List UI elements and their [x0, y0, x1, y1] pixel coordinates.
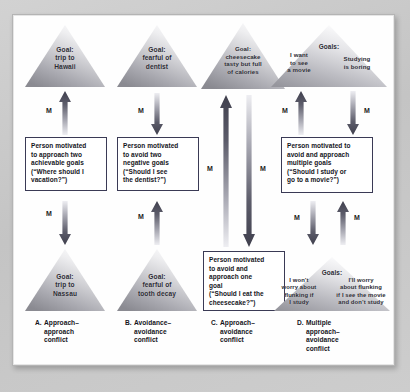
caption-B-letter: B. [125, 319, 132, 328]
triangle-D-top-right-label: Studying is boring [332, 55, 382, 70]
caption-A-line-3: conflict [44, 336, 119, 345]
arrow-A-down-M-label: M [46, 210, 52, 217]
caption-D-letter: D. [297, 319, 304, 328]
text-box-B: Person motivated to avoid two negative g… [117, 137, 199, 191]
caption-A: A. Approach– approach conflict [35, 319, 119, 345]
arrow-B-up-M-label: M [138, 213, 144, 220]
triangle-D-bottom-left-label: I won’t worry about flunking if I study [269, 277, 329, 306]
caption-C: C. Approach– avoidance conflict [211, 319, 297, 345]
arrow-D-down-to-bottom-goals [305, 201, 321, 245]
caption-B-line-3: conflict [134, 336, 211, 345]
arrow-B-up-from-bottom-goal [149, 201, 165, 245]
triangle-D-top-left-label: I want to see a movie [276, 51, 322, 74]
caption-A-line-2: approach [44, 328, 119, 337]
arrow-D-up-from-bottom-goals [335, 201, 351, 245]
triangle-D-bottom-right-label: I’ll worry about flunking if I see the m… [323, 277, 399, 306]
triangle-D-bottom-goals: Goals: I won’t worry about flunking if I… [271, 255, 393, 313]
arrow-C-up-to-goal [218, 95, 234, 247]
triangle-B-top-goal: Goal: fearful of dentist [115, 23, 199, 89]
arrow-C-up-M-label: M [207, 165, 213, 172]
caption-C-letter: C. [211, 319, 218, 328]
figure-root: Goal: trip to Hawaii M Person motivated … [0, 0, 410, 392]
arrow-B-down-M-label: M [138, 107, 144, 114]
caption-A-letter: A. [35, 319, 42, 328]
text-box-A: Person motivated to approach two achieva… [25, 137, 107, 191]
arrow-A-up-M-label: M [46, 107, 52, 114]
caption-C-line-3: conflict [220, 336, 297, 345]
caption-D-line-3: avoidance [306, 336, 387, 345]
arrow-C-down-to-box [241, 95, 257, 247]
figure-panel: Goal: trip to Hawaii M Person motivated … [12, 14, 395, 366]
triangle-B-bottom-goal: Goal: fearful of tooth decay [115, 247, 199, 313]
triangle-B-top-label: Goal: fearful of dentist [115, 46, 199, 71]
arrow-D-up-to-top-goals [293, 91, 309, 135]
triangle-B-bottom-label: Goal: fearful of tooth decay [115, 273, 199, 298]
arrow-A-up-to-top-goal [57, 91, 73, 135]
text-box-D: Person motivated to avoid and approach m… [281, 137, 373, 193]
arrow-D-down-from-top-goals [345, 91, 361, 135]
arrow-D-up-bottom-M-label: M [354, 214, 360, 221]
arrow-C-down-M-label: M [260, 165, 266, 172]
arrow-B-down-from-top-goal [149, 93, 165, 135]
caption-D-line-1: Multiple [306, 319, 387, 328]
caption-C-line-1: Approach– [220, 319, 297, 328]
caption-D-line-2: approach– [306, 328, 387, 337]
arrow-D-down-top-M-label: M [364, 107, 370, 114]
caption-B-line-2: avoidance [134, 328, 211, 337]
triangle-D-top-goals: Goals: I want to see a movie Studying is… [268, 23, 390, 89]
caption-D: D. Multiple approach– avoidance conflict [297, 319, 387, 353]
arrow-D-up-top-M-label: M [282, 107, 288, 114]
triangle-A-top-goal: Goal: trip to Hawaii [23, 23, 107, 89]
triangle-A-bottom-label: Goal: trip to Nassau [23, 273, 107, 298]
arrow-A-down-to-bottom-goal [57, 201, 73, 245]
triangle-A-top-label: Goal: trip to Hawaii [23, 46, 107, 71]
caption-B: B. Avoidance– avoidance conflict [125, 319, 211, 345]
arrow-D-down-bottom-M-label: M [294, 214, 300, 221]
caption-A-line-1: Approach– [44, 319, 119, 328]
triangle-A-bottom-goal: Goal: trip to Nassau [23, 247, 107, 313]
caption-D-line-4: conflict [306, 345, 387, 354]
caption-B-line-1: Avoidance– [134, 319, 211, 328]
caption-C-line-2: avoidance [220, 328, 297, 337]
